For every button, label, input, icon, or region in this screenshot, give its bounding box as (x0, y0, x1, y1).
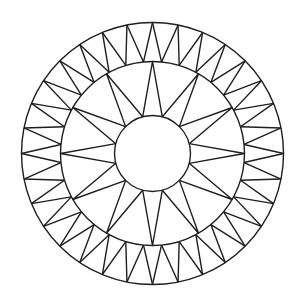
pattern-figure (0, 0, 308, 292)
background (0, 0, 308, 292)
